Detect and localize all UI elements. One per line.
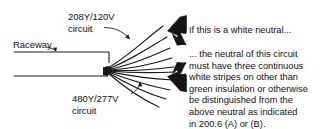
arrow-down-left-icon (168, 16, 187, 46)
label-circuit-480-line2: circuit (72, 105, 96, 117)
callout-top-text: If this is a white neutral... (189, 25, 291, 37)
callout-body-line: in 200.6 (A) or (B). (189, 119, 308, 129)
leader-208 (104, 28, 130, 40)
callout-body-line: above neutral as indicated (189, 107, 308, 119)
wire-fan-208 (107, 26, 175, 71)
callout-body-line: be distinguished from the (189, 95, 308, 107)
arrow-up-left-icon (168, 62, 187, 92)
callout-body-line: ... the neutral of this circuit (189, 49, 308, 61)
callout-body-line: green insulation or otherwise (189, 84, 308, 96)
diagram-figure: Raceway 208Y/120V circuit 480Y/277V circ… (0, 0, 325, 129)
callout-body-text: ... the neutral of this circuit must hav… (189, 49, 308, 129)
label-circuit-208-line1: 208Y/120V (68, 11, 115, 23)
label-circuit-208-line2: circuit (68, 23, 92, 35)
callout-body-line: white stripes on other than (189, 72, 308, 84)
raceway-conduit (14, 52, 109, 76)
label-circuit-480-line1: 480Y/277V (72, 93, 119, 105)
callout-body-line: must have three continuous (189, 61, 308, 73)
label-raceway: Raceway (13, 39, 52, 51)
